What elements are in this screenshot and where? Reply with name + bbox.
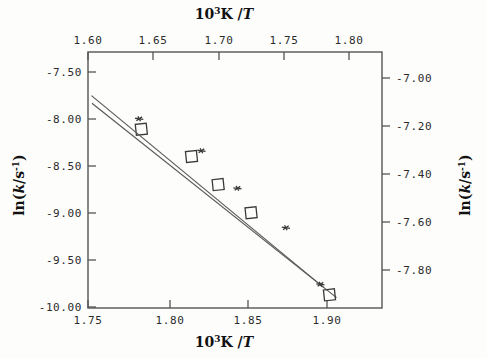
right-axis-title-pre: ln( — [457, 194, 473, 216]
right-axis-title-post: /s — [457, 171, 473, 184]
top-tick-label-2: 1.70 — [205, 34, 234, 47]
right-tick-label-0: -7.00 — [396, 72, 432, 85]
left-tick-label-3: -9.00 — [46, 207, 82, 220]
data-point-asterisk-1 — [197, 148, 205, 153]
bottom-tick-label-2: 1.85 — [234, 314, 263, 327]
left-tick-label-2: -8.50 — [46, 160, 82, 173]
left-axis-title: ln(k/s-1) — [11, 154, 27, 215]
top-axis-title-prefix: 10 — [195, 6, 215, 22]
left-axis-title-exponent: -1 — [11, 161, 21, 171]
bottom-tick-label-0: 1.75 — [74, 314, 103, 327]
fit-line-1 — [91, 96, 323, 288]
left-axis-title-pre: ln( — [11, 194, 27, 216]
left-axis-title-post: /s — [11, 171, 27, 184]
top-tick-label-1: 1.65 — [139, 34, 168, 47]
square-marker-1 — [185, 150, 197, 162]
top-axis-title-mid: K / — [221, 6, 244, 22]
data-point-asterisk-3 — [282, 225, 290, 230]
right-axis-title: ln(k/s-1) — [457, 154, 473, 215]
data-point-square-3 — [245, 207, 257, 219]
bottom-axis-title-variable: T — [243, 334, 255, 350]
data-series-layer — [91, 96, 336, 301]
right-tick-label-4: -7.80 — [396, 264, 432, 277]
top-tick-label-0: 1.60 — [74, 34, 103, 47]
data-point-square-1 — [185, 150, 197, 162]
top-tick-label-3: 1.75 — [270, 34, 299, 47]
plot-frame — [88, 52, 382, 308]
data-point-square-2 — [212, 179, 224, 191]
square-marker-3 — [245, 207, 257, 219]
right-axis-title-variable: k — [457, 184, 473, 194]
right-axis-title-exponent: -1 — [457, 161, 467, 171]
left-tick-label-0: -7.50 — [46, 66, 82, 79]
right-tick-label-1: -7.20 — [396, 120, 432, 133]
right-tick-label-3: -7.60 — [396, 216, 432, 229]
left-axis-title-variable: k — [11, 184, 27, 194]
data-point-asterisk-0 — [135, 116, 143, 121]
arrhenius-plot-figure: 1.60 1.65 1.70 1.75 1.80 103K /T 1.75 1.… — [0, 0, 487, 358]
square-marker-2 — [212, 179, 224, 191]
top-axis-title-variable: T — [243, 6, 255, 22]
left-tick-label-5: -10.00 — [39, 301, 82, 314]
plot-canvas: 1.60 1.65 1.70 1.75 1.80 103K /T 1.75 1.… — [0, 0, 487, 358]
bottom-tick-label-3: 1.90 — [313, 314, 342, 327]
bottom-axis-title: 103K /T — [195, 334, 255, 350]
right-axis: -7.00 -7.20 -7.40 -7.60 -7.80 ln(k/s-1) — [382, 72, 473, 277]
right-axis-title-close: ) — [457, 154, 473, 161]
left-tick-label-1: -8.00 — [46, 113, 82, 126]
bottom-tick-label-1: 1.80 — [156, 314, 185, 327]
right-tick-label-2: -7.40 — [396, 168, 432, 181]
left-axis: -7.50 -8.00 -8.50 -9.00 -9.50 -10.00 ln(… — [11, 66, 96, 314]
data-point-asterisk-2 — [233, 186, 241, 191]
left-tick-label-4: -9.50 — [46, 254, 82, 267]
top-tick-label-4: 1.80 — [335, 34, 364, 47]
bottom-axis-title-mid: K / — [221, 334, 244, 350]
left-axis-title-close: ) — [11, 154, 27, 161]
top-axis-title: 103K /T — [195, 6, 255, 22]
bottom-axis-title-prefix: 10 — [195, 334, 215, 350]
